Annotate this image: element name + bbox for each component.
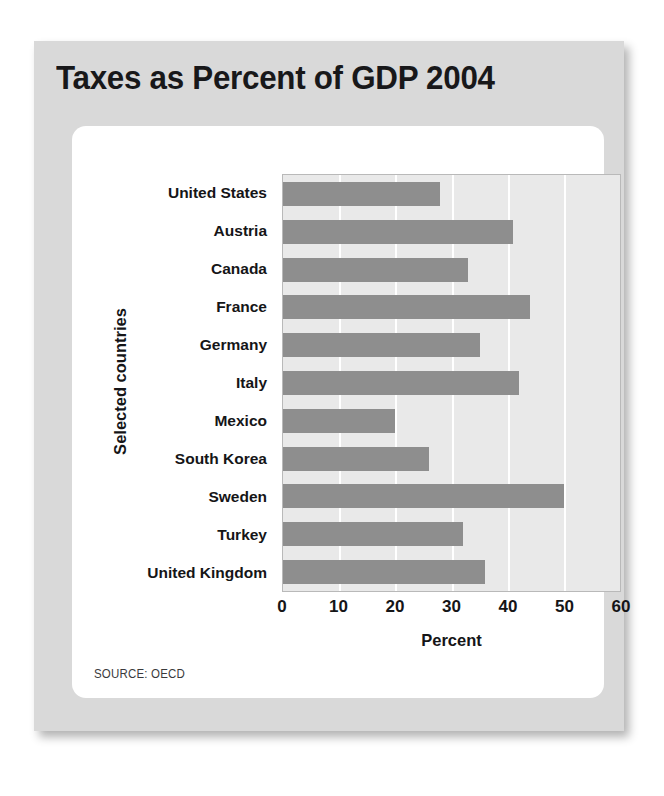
y-axis-tick-label: United States <box>102 174 276 212</box>
x-axis-tick-labels: 0102030405060 <box>282 598 621 622</box>
chart-panel: Selected countries United StatesAustriaC… <box>72 126 604 698</box>
x-axis-tick-label: 50 <box>555 598 574 615</box>
gridline <box>620 175 621 591</box>
bar <box>283 560 485 584</box>
bar-row <box>283 478 620 516</box>
bar-series <box>283 175 620 591</box>
bar <box>283 371 519 395</box>
y-axis-tick-label: Turkey <box>102 516 276 554</box>
chart-card: Taxes as Percent of GDP 2004 Selected co… <box>34 41 624 731</box>
bar <box>283 409 395 433</box>
y-axis-tick-labels: United StatesAustriaCanadaFranceGermanyI… <box>102 174 276 592</box>
y-axis-tick-label: South Korea <box>102 440 276 478</box>
bar-row <box>283 364 620 402</box>
bar-row <box>283 553 620 591</box>
x-axis-tick-label: 60 <box>612 598 631 615</box>
bar-row <box>283 515 620 553</box>
bar <box>283 220 513 244</box>
x-axis-tick-label: 10 <box>329 598 348 615</box>
plot-area <box>282 174 621 592</box>
bar-row <box>283 175 620 213</box>
bar <box>283 484 564 508</box>
y-axis-tick-label: France <box>102 288 276 326</box>
figure: Selected countries United StatesAustriaC… <box>72 126 604 698</box>
bar-row <box>283 288 620 326</box>
chart-title: Taxes as Percent of GDP 2004 <box>56 59 495 97</box>
bar-row <box>283 402 620 440</box>
x-axis-tick-label: 30 <box>442 598 461 615</box>
y-axis-tick-label: Austria <box>102 212 276 250</box>
x-axis-tick-label: 40 <box>499 598 518 615</box>
bar <box>283 182 440 206</box>
x-axis-tick-label: 20 <box>386 598 405 615</box>
source-note: SOURCE: OECD <box>94 667 185 681</box>
bar <box>283 295 530 319</box>
bar <box>283 447 429 471</box>
bar <box>283 258 468 282</box>
y-axis-tick-label: Germany <box>102 326 276 364</box>
bar-row <box>283 326 620 364</box>
y-axis-tick-label: Mexico <box>102 402 276 440</box>
y-axis-tick-label: United Kingdom <box>102 554 276 592</box>
bar <box>283 522 463 546</box>
y-axis-tick-label: Italy <box>102 364 276 402</box>
bar-row <box>283 251 620 289</box>
y-axis-tick-label: Sweden <box>102 478 276 516</box>
bar-row <box>283 213 620 251</box>
x-axis-tick-label: 0 <box>277 598 286 615</box>
y-axis-tick-label: Canada <box>102 250 276 288</box>
bar <box>283 333 480 357</box>
bar-row <box>283 440 620 478</box>
x-axis-title: Percent <box>282 631 621 650</box>
